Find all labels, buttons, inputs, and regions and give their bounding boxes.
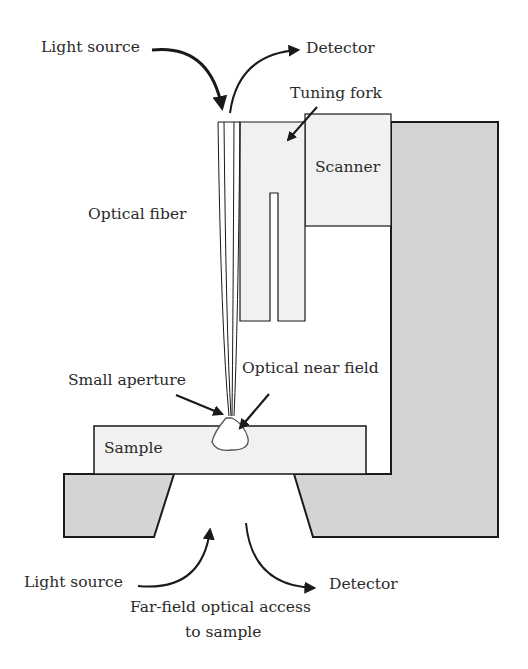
- light-source-top-arrow: [152, 49, 222, 108]
- small-aperture-arrow: [176, 395, 222, 414]
- label-light-source-bottom: Light source: [24, 573, 123, 591]
- label-tuning-fork: Tuning fork: [290, 84, 383, 102]
- near-field-arrow: [240, 394, 269, 428]
- label-detector-bottom: Detector: [329, 575, 398, 593]
- label-sample: Sample: [104, 439, 163, 457]
- light-source-bottom-arrow: [138, 530, 210, 587]
- near-field-blob: [212, 418, 248, 450]
- optical-fiber: [218, 122, 240, 416]
- label-small-aperture: Small aperture: [68, 371, 186, 389]
- tuning-fork: [240, 122, 305, 321]
- label-optical-near-field: Optical near field: [242, 359, 379, 377]
- label-far-field-line1: Far-field optical access: [130, 598, 311, 616]
- label-optical-fiber: Optical fiber: [88, 205, 187, 223]
- label-detector-top: Detector: [306, 39, 375, 57]
- label-scanner: Scanner: [315, 158, 381, 176]
- nsom-diagram: Light source Detector Tuning fork Scanne…: [0, 0, 528, 669]
- detector-top-arrow: [230, 50, 298, 113]
- label-far-field-line2: to sample: [185, 623, 261, 641]
- detector-bottom-arrow: [246, 523, 314, 588]
- label-light-source-top: Light source: [41, 38, 140, 56]
